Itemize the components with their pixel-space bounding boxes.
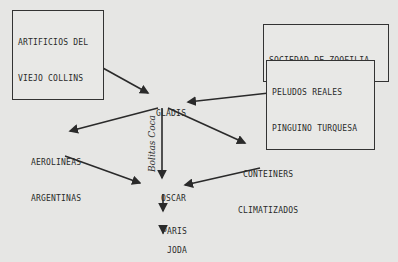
node-line: PINGUINO TURQUESA: [272, 123, 369, 135]
node-joda: JODA: [157, 233, 187, 257]
node-line: ARGENTINAS: [31, 193, 81, 205]
node-label: OSCAR: [161, 194, 186, 203]
node-label: JODA: [167, 246, 187, 255]
node-line: VIEJO COLLINS: [18, 73, 98, 85]
node-oscar: OSCAR: [151, 181, 186, 205]
node-line: CLIMATIZADOS: [238, 205, 298, 217]
edge-gladis-aerolineas: [70, 108, 158, 131]
node-artificios-del-viejo-collins: ARTIFICIOS DEL VIEJO COLLINS: [12, 10, 104, 100]
edge-label-gladis-oscar: Bolitas Coca: [147, 115, 157, 172]
node-line: CONTEINERS: [238, 169, 298, 181]
node-label: GLADIS: [156, 109, 186, 118]
node-line: AEROLINEAS: [31, 157, 81, 169]
node-conteiners-climatizados: CONTEINERS CLIMATIZADOS: [238, 145, 298, 229]
node-line: ARTIFICIOS DEL: [18, 37, 98, 49]
node-line: PELUDOS REALES: [272, 87, 369, 99]
node-peludos-reales: PELUDOS REALES PINGUINO TURQUESA: [266, 60, 375, 150]
node-aerolineas-argentinas: AEROLINEAS ARGENTINAS: [31, 133, 81, 217]
